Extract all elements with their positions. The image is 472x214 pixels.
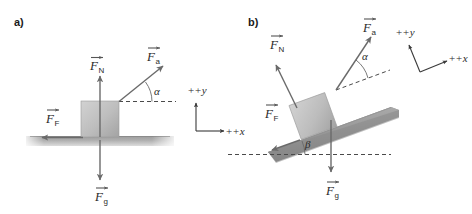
- beta-angle-label-b: β: [304, 138, 311, 150]
- normal-force-subscript: N: [98, 66, 104, 75]
- y-axis-text-a: +y: [194, 84, 206, 96]
- y-axis-text-b: +y: [402, 26, 414, 38]
- alpha-angle-label-a: α: [154, 85, 160, 97]
- panel-b-label: b): [248, 16, 259, 28]
- normal-force-subscript-b: N: [278, 45, 284, 54]
- y-axis-label-a: ++y: [188, 84, 207, 96]
- alpha-angle-label-b: α: [362, 50, 368, 62]
- y-axis-label-b: ++y: [396, 26, 415, 38]
- friction-force-subscript-b: F: [273, 114, 278, 123]
- applied-force-subscript-b: a: [371, 28, 376, 37]
- x-axis-label-a: ++x: [226, 125, 245, 137]
- friction-force-subscript: F: [54, 119, 59, 128]
- x-axis-text-b: +x: [455, 52, 467, 64]
- gravity-force-subscript-b: g: [334, 191, 338, 200]
- gravity-force-subscript: g: [103, 197, 107, 206]
- physics-force-diagram: a) FN Fg: [0, 0, 472, 214]
- x-axis-text-a: +x: [232, 125, 244, 137]
- x-axis-label-b: ++x: [449, 52, 468, 64]
- applied-force-subscript: a: [155, 57, 160, 66]
- panel-a-label: a): [14, 16, 24, 28]
